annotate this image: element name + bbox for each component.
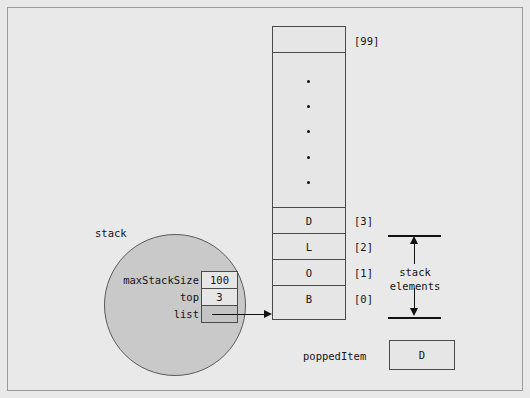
stack-elements-label-line1: stack <box>380 266 450 279</box>
pointer-arrow-line <box>212 314 267 315</box>
field-name-top: top <box>111 289 199 305</box>
field-name-maxstacksize: maxStackSize <box>111 272 199 288</box>
array-cell-value-3: D <box>272 215 346 227</box>
array-cell-value-0: B <box>272 293 346 305</box>
array-index-label-3: [3] <box>354 215 373 227</box>
ellipsis-dot <box>307 80 310 83</box>
array-index-label-99: [99] <box>354 35 379 47</box>
array-cell-value-2: L <box>272 241 346 253</box>
stack-elements-bottom-line <box>388 317 441 319</box>
array-index-label-2: [2] <box>354 241 373 253</box>
field-value-maxstacksize: 100 <box>201 271 238 289</box>
array-cell-divider-0 <box>272 285 346 286</box>
array-cell-divider-2 <box>272 233 346 234</box>
array-cell-divider-1 <box>272 259 346 260</box>
stack-object-label: stack <box>95 228 127 239</box>
array-index-label-0: [0] <box>354 293 373 305</box>
array-cell-divider-top <box>272 52 346 53</box>
array-cell-divider-3 <box>272 207 346 208</box>
stack-elements-up-arrowhead <box>410 236 418 244</box>
array-cell-value-1: O <box>272 267 346 279</box>
stack-elements-down-arrowhead <box>410 308 418 316</box>
ellipsis-dot <box>307 181 310 184</box>
array-index-label-1: [1] <box>354 267 373 279</box>
figure-frame <box>7 7 523 391</box>
stack-elements-label-line2: elements <box>375 280 455 293</box>
pointer-arrow-head <box>264 310 272 318</box>
ellipsis-dot <box>307 105 310 108</box>
popped-item-value: D <box>389 340 455 370</box>
ellipsis-dot <box>307 130 310 133</box>
figure-canvas: [99] D L O B [3] [2] [1] [0] stack maxSt… <box>0 0 530 398</box>
popped-item-label: poppedItem <box>303 351 366 362</box>
field-name-list: list <box>111 306 199 322</box>
ellipsis-dot <box>307 156 310 159</box>
field-value-top: 3 <box>201 288 238 306</box>
